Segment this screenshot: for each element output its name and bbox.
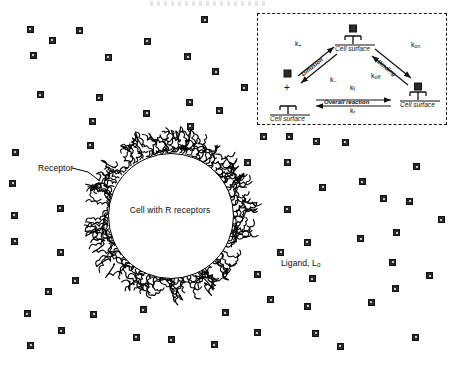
inset-node-encounter-surface-label: Cell surface bbox=[335, 45, 370, 52]
inset-node-free-surface-label: Cell surface bbox=[270, 115, 305, 122]
cell-body bbox=[108, 153, 234, 279]
rate-k-f: kf bbox=[350, 84, 355, 92]
receptor-filament bbox=[149, 133, 159, 153]
rate-k-minus-subscript: − bbox=[334, 78, 337, 84]
receptor-filament bbox=[187, 130, 196, 155]
rate-k-r: kr bbox=[350, 107, 355, 115]
rate-k-off: koff bbox=[371, 72, 381, 80]
reaction-scheme-inset: Cell surface Cell surface Cell surface +… bbox=[257, 13, 447, 125]
rate-k-plus-subscript: + bbox=[299, 42, 302, 48]
rate-k-off-subscript: off bbox=[375, 74, 381, 80]
rate-k-on-subscript: on bbox=[415, 43, 421, 49]
receptor-leader-line bbox=[72, 168, 100, 181]
figure-canvas: Cell with R receptors Receptor Ligand, L… bbox=[0, 0, 454, 368]
inset-node-bound-surface-label: Cell surface bbox=[400, 101, 435, 108]
rate-k-on: kon bbox=[411, 41, 421, 49]
cell-caption: Cell with R receptors bbox=[108, 205, 232, 215]
plus-sign: + bbox=[284, 83, 290, 93]
rate-k-r-subscript: r bbox=[354, 109, 356, 115]
ligand-label-subscript: 0 bbox=[317, 261, 321, 268]
ligand-label: Ligand, L0 bbox=[281, 258, 320, 268]
overall-reaction-step-label: Overall reaction bbox=[324, 99, 369, 105]
rate-k-plus: k+ bbox=[295, 40, 302, 48]
rate-k-minus: k− bbox=[330, 76, 337, 84]
receptor-filament bbox=[86, 200, 108, 205]
receptor-label: Receptor bbox=[38, 163, 73, 173]
ligand-label-text: Ligand, L bbox=[281, 258, 317, 268]
rate-k-f-subscript: f bbox=[354, 86, 356, 92]
